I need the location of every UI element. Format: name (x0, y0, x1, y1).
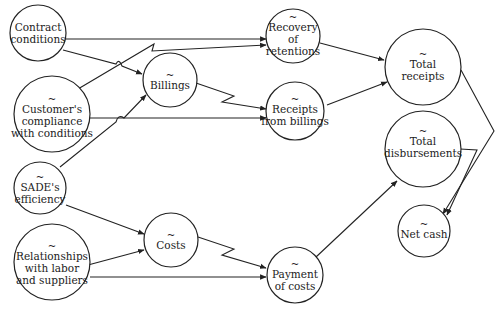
label-contract-conditions: Contract conditions (10, 21, 65, 45)
edge-sade-costs (66, 205, 144, 234)
label-line: from billings (261, 115, 329, 127)
tilde-icon: ~ (150, 70, 190, 79)
label-line: Relationships (16, 250, 88, 262)
edge-costs-payment (198, 237, 266, 268)
tilde-icon: ~ (11, 94, 93, 103)
label-line: of (266, 33, 320, 45)
label-line: of costs (272, 280, 318, 292)
edge-contract-billings (63, 50, 142, 74)
tilde-icon: ~ (384, 126, 462, 135)
label-recovery: ~ Recovery of retentions (266, 12, 320, 57)
label-line: with conditions (11, 127, 93, 139)
edge-payment-disb (316, 181, 397, 257)
tilde-icon: ~ (272, 259, 318, 268)
label-line: conditions (10, 33, 65, 45)
tilde-icon: ~ (401, 49, 444, 58)
label-line: Payment (272, 268, 318, 280)
label-sade-efficiency: ~ SADE's efficiency (14, 172, 65, 205)
label-line: SADE's (14, 181, 65, 193)
label-billings: ~ Billings (150, 70, 190, 91)
label-line: compliance (11, 115, 93, 127)
label-line: efficiency (14, 193, 65, 205)
label-costs: ~ Costs (156, 230, 185, 251)
label-line: Receipts (261, 103, 329, 115)
label-line: Net cash (400, 228, 447, 240)
tilde-icon: ~ (14, 172, 65, 181)
edge-rel-costs (88, 250, 144, 265)
label-line: Contract (10, 21, 65, 33)
label-relationships: ~ Relationships with labor and suppliers (16, 241, 88, 286)
label-receipts: ~ Receipts from billings (261, 94, 329, 127)
edge-receipts-total (327, 82, 387, 105)
label-line: and suppliers (16, 274, 88, 286)
label-line: with labor (16, 262, 88, 274)
tilde-icon: ~ (156, 230, 185, 239)
tilde-icon: ~ (16, 241, 88, 250)
label-line: Customer's (11, 103, 93, 115)
tilde-icon: ~ (400, 219, 447, 228)
label-line: Total (401, 58, 444, 70)
label-line: retentions (266, 45, 320, 57)
label-line: disbursements (384, 147, 462, 159)
label-line: Recovery (266, 21, 320, 33)
label-customer-compliance: ~ Customer's compliance with conditions (11, 94, 93, 139)
label-total-disbursements: ~ Total disbursements (384, 126, 462, 159)
edge-billings-receipts (196, 83, 266, 109)
label-payment: ~ Payment of costs (272, 259, 318, 292)
label-net-cash: ~ Net cash (400, 219, 447, 240)
tilde-icon: ~ (266, 12, 320, 21)
label-line: Total (384, 135, 462, 147)
label-total-receipts: ~ Total receipts (401, 49, 444, 82)
label-line: receipts (401, 70, 444, 82)
label-line: Costs (156, 239, 185, 251)
tilde-icon: ~ (261, 94, 329, 103)
label-line: Billings (150, 79, 190, 91)
edge-recovery-total (320, 43, 384, 60)
